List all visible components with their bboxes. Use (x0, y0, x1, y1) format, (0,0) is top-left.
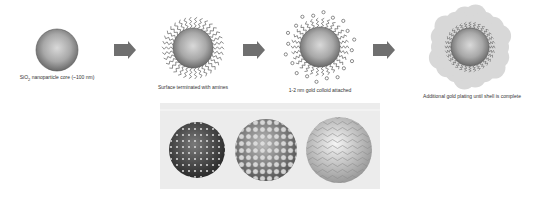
sphere-islands (235, 119, 297, 181)
arrow-icon (373, 41, 395, 59)
sphere-seeded (169, 122, 225, 178)
silica-core (36, 29, 78, 71)
arrow-icon (243, 41, 265, 59)
rendered-spheres-panel (160, 103, 380, 189)
silica-core (451, 28, 489, 66)
step-colloid (284, 11, 356, 84)
label-text: nanoparticle core (~100 nm) (30, 74, 94, 80)
diagram-canvas (0, 0, 539, 200)
arrow-icon (114, 41, 136, 59)
step-shell-label: Additional gold plating until shell is c… (423, 93, 521, 99)
step-core (36, 29, 78, 71)
sphere-complete-shell (306, 117, 372, 183)
silica-core (173, 28, 213, 68)
step-amines (162, 17, 224, 79)
step-colloid-label: 1-2 nm gold colloid attached (289, 87, 352, 93)
step-core-label: SiO2 nanoparticle core (~100 nm) (20, 74, 95, 82)
step-shell (429, 5, 511, 90)
silica-core (300, 27, 340, 67)
step-amines-label: Surface terminated with amines (158, 84, 228, 90)
